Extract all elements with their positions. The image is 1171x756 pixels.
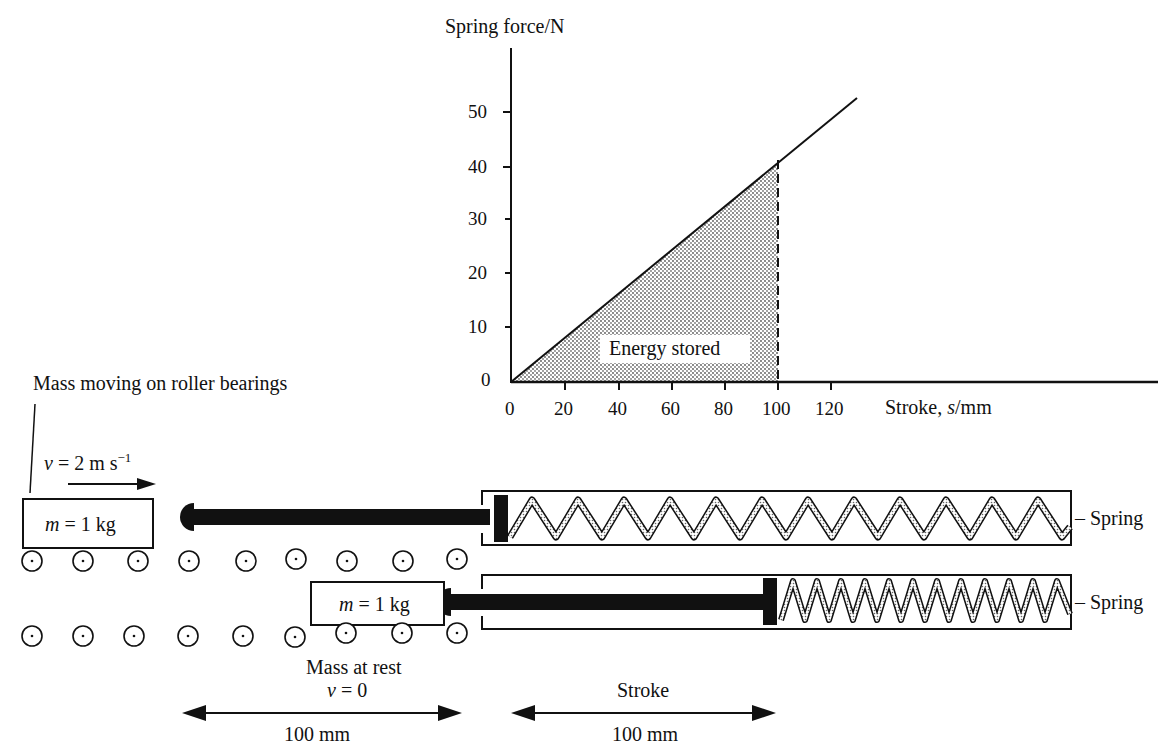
- x-tick-120: 120: [815, 399, 844, 418]
- dim-left-arrow-left-icon: [182, 705, 206, 721]
- energy-stored-label: Energy stored: [609, 338, 720, 358]
- x-tick-40: 40: [608, 399, 627, 418]
- x-tick-60: 60: [661, 399, 680, 418]
- y-tick-30: 30: [468, 209, 487, 228]
- top-piston-plate: [494, 495, 508, 542]
- top-plunger-rod: [190, 509, 490, 525]
- bottom-plunger-rod: [445, 594, 767, 610]
- y-tick-marks: [503, 112, 511, 327]
- mass-bottom-label: m = 1 kg: [339, 594, 410, 614]
- y-tick-50: 50: [468, 102, 487, 121]
- x-tick-100: 100: [762, 399, 791, 418]
- caption-leader-line: [30, 404, 35, 493]
- rest-caption: Mass at rest: [306, 657, 402, 677]
- x-tick-80: 80: [714, 399, 733, 418]
- x-axis-label: Stroke, s/mm: [885, 397, 992, 417]
- rest-velocity-label: v = 0: [327, 680, 367, 700]
- dim-right-arrow-right-icon: [752, 705, 776, 721]
- y-tick-0: 0: [481, 370, 491, 389]
- y-tick-20: 20: [468, 263, 487, 282]
- moving-mass-caption: Mass moving on roller bearings: [33, 373, 287, 393]
- dim-left-label: 100 mm: [284, 724, 350, 744]
- x-tick-20: 20: [554, 399, 573, 418]
- top-rollers: [22, 549, 467, 571]
- dim-left-arrow-right-icon: [438, 705, 462, 721]
- y-axis-label: Spring force/N: [445, 16, 564, 36]
- x-tick-0: 0: [505, 399, 515, 418]
- dim-right-label: 100 mm: [612, 724, 678, 744]
- spring-top-label: – Spring: [1075, 508, 1143, 528]
- spring-bottom-label: – Spring: [1075, 592, 1143, 612]
- mass-top-label: m = 1 kg: [45, 514, 116, 534]
- velocity-label: v = 2 m s−1: [44, 451, 131, 473]
- y-tick-40: 40: [468, 157, 487, 176]
- velocity-arrow-icon: [137, 478, 156, 490]
- dim-right-arrow-left-icon: [511, 705, 535, 721]
- bottom-rollers: [22, 623, 467, 647]
- stroke-label: Stroke: [617, 680, 669, 700]
- top-plunger-head-icon: [180, 503, 194, 531]
- bottom-piston-plate: [763, 578, 777, 625]
- y-tick-10: 10: [468, 317, 487, 336]
